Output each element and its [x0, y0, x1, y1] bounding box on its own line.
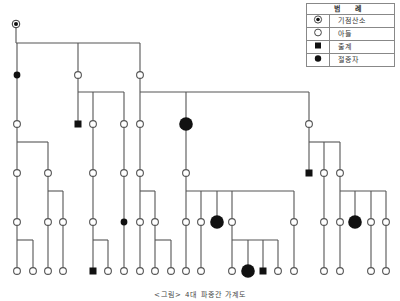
- son-node-icon: [14, 219, 21, 226]
- son-node-icon: [121, 121, 128, 128]
- adopted-out-node-icon: [306, 170, 313, 177]
- legend-row-origin: 기점산소: [307, 15, 395, 28]
- son-node-icon: [45, 268, 52, 275]
- line-extinct-node-icon: [121, 219, 128, 226]
- son-node-icon: [137, 170, 144, 177]
- legend-table: 범 례 기점산소 아들 출계 절종자: [306, 3, 395, 67]
- legend-label-line-extinct: 절종자: [330, 54, 395, 67]
- line-extinct-node-icon: [348, 215, 362, 229]
- son-node-icon: [105, 268, 112, 275]
- son-node-icon: [60, 219, 67, 226]
- son-node-icon: [90, 170, 97, 177]
- adopted-out-node-icon: [90, 268, 97, 275]
- adopted-out-node-icon: [75, 121, 82, 128]
- son-node-icon: [137, 268, 144, 275]
- son-node-icon: [183, 268, 190, 275]
- son-node-icon: [137, 219, 144, 226]
- son-node-icon: [45, 170, 52, 177]
- son-node-icon: [14, 170, 21, 177]
- son-node-icon: [90, 121, 97, 128]
- son-node-icon: [321, 268, 328, 275]
- son-node-icon: [30, 268, 37, 275]
- son-node-icon: [198, 219, 205, 226]
- filled-square-icon: [307, 41, 330, 54]
- son-node-icon: [137, 121, 144, 128]
- filled-circle-icon: [307, 54, 330, 67]
- legend-row-adopted-out: 출계: [307, 41, 395, 54]
- line-extinct-node-icon: [210, 215, 224, 229]
- line-extinct-node-icon: [241, 264, 255, 278]
- son-node-icon: [275, 268, 282, 275]
- son-node-icon: [183, 219, 190, 226]
- son-node-icon: [383, 268, 390, 275]
- son-node-icon: [229, 219, 236, 226]
- son-node-icon: [337, 219, 344, 226]
- son-node-icon: [152, 219, 159, 226]
- bullseye-icon: [307, 15, 330, 28]
- son-node-icon: [183, 170, 190, 177]
- son-node-icon: [168, 268, 175, 275]
- son-node-icon: [368, 268, 375, 275]
- son-node-icon: [321, 219, 328, 226]
- son-node-icon: [291, 268, 298, 275]
- legend-row-son: 아들: [307, 28, 395, 41]
- son-node-icon: [306, 121, 313, 128]
- legend-label-adopted-out: 출계: [330, 41, 395, 54]
- son-node-icon: [368, 219, 375, 226]
- son-node-icon: [75, 72, 82, 79]
- son-node-icon: [90, 219, 97, 226]
- legend-label-origin: 기점산소: [330, 15, 395, 28]
- son-node-icon: [45, 219, 52, 226]
- son-node-icon: [14, 121, 21, 128]
- legend-title: 범 례: [307, 4, 395, 15]
- figure-caption: <그림> 4대 파종간 가계도: [0, 289, 400, 299]
- son-node-icon: [383, 219, 390, 226]
- son-node-icon: [121, 170, 128, 177]
- son-node-icon: [121, 268, 128, 275]
- son-node-icon: [321, 170, 328, 177]
- origin-ancestor-icon: [12, 20, 20, 28]
- son-node-icon: [137, 72, 144, 79]
- legend-label-son: 아들: [330, 28, 395, 41]
- legend-row-line-extinct: 절종자: [307, 54, 395, 67]
- son-node-icon: [337, 268, 344, 275]
- son-node-icon: [14, 268, 21, 275]
- son-node-icon: [152, 268, 159, 275]
- adopted-out-node-icon: [260, 268, 267, 275]
- son-node-icon: [60, 268, 67, 275]
- open-circle-icon: [307, 28, 330, 41]
- line-extinct-node-icon: [14, 72, 21, 79]
- son-node-icon: [291, 219, 298, 226]
- line-extinct-node-icon: [179, 117, 193, 131]
- son-node-icon: [229, 268, 236, 275]
- son-node-icon: [337, 170, 344, 177]
- son-node-icon: [198, 268, 205, 275]
